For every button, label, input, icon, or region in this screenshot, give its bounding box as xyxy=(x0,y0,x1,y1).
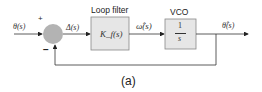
summing-junction xyxy=(43,24,63,44)
vco-num: 1 xyxy=(178,21,182,30)
loop-filter-title: Loop filter xyxy=(91,5,128,15)
omega-label: ω̂(s) xyxy=(136,21,152,31)
input-label: θ(s) xyxy=(13,22,25,31)
minus-sign: − xyxy=(43,44,49,55)
caption: (a) xyxy=(121,74,136,88)
loop-filter-tf: K_f(s) xyxy=(100,29,123,39)
error-label: Δ(s) xyxy=(66,23,79,32)
vco-den: s xyxy=(178,34,181,43)
vco-title: VCO xyxy=(170,7,188,17)
plus-sign: + xyxy=(38,14,43,23)
output-label: θ̂(s) xyxy=(222,21,234,30)
